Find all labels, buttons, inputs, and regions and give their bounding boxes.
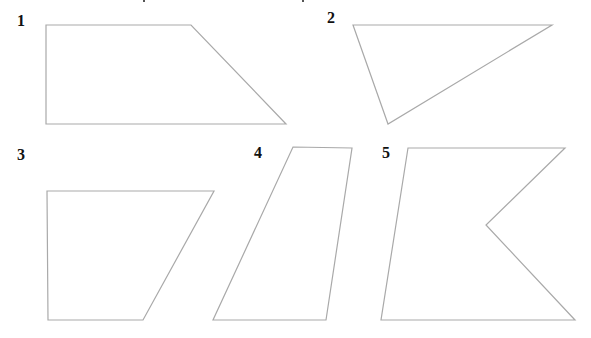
shape-group-4: 4 xyxy=(213,144,352,320)
shape-5-concave-pentagon xyxy=(381,148,575,320)
shape-group-5: 5 xyxy=(381,144,575,320)
shape-2-triangle xyxy=(353,25,552,124)
cropped-text-fragment xyxy=(302,0,304,2)
cropped-text-fragment xyxy=(143,0,145,2)
shape-group-1: 1 xyxy=(17,12,286,124)
shape-2-label: 2 xyxy=(327,9,335,26)
shape-1-label: 1 xyxy=(17,12,25,29)
shape-1-trapezoid xyxy=(46,25,286,124)
shape-group-3: 3 xyxy=(17,146,214,320)
figure-canvas: 1 2 3 4 5 xyxy=(0,0,591,338)
shape-5-label: 5 xyxy=(382,144,390,161)
shape-group-2: 2 xyxy=(327,9,552,124)
shape-4-quadrilateral xyxy=(213,147,352,320)
shape-3-label: 3 xyxy=(17,146,25,163)
shape-3-trapezoid xyxy=(47,191,214,320)
shape-4-label: 4 xyxy=(254,144,262,161)
shapes-diagram: 1 2 3 4 5 xyxy=(0,0,591,338)
